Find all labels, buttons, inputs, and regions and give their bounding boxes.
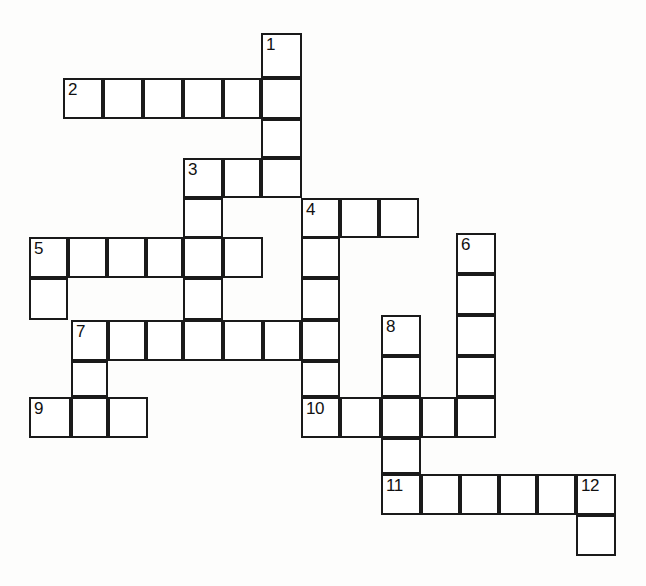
crossword-cell[interactable] bbox=[103, 78, 143, 119]
crossword-cell[interactable] bbox=[183, 198, 223, 238]
crossword-cell[interactable] bbox=[301, 237, 340, 278]
crossword-cell[interactable] bbox=[576, 515, 616, 556]
cell-number-12: 12 bbox=[581, 476, 599, 495]
crossword-cell[interactable] bbox=[381, 397, 421, 438]
cell-number-3: 3 bbox=[188, 160, 197, 179]
crossword-cell-numbered[interactable]: 12 bbox=[576, 474, 616, 515]
crossword-cell[interactable] bbox=[379, 198, 419, 238]
crossword-cell[interactable] bbox=[456, 315, 496, 356]
crossword-cell[interactable] bbox=[456, 274, 496, 315]
crossword-cell[interactable] bbox=[301, 361, 340, 397]
crossword-cell[interactable] bbox=[183, 278, 223, 320]
crossword-cell[interactable] bbox=[223, 78, 261, 119]
crossword-cell-numbered[interactable]: 9 bbox=[29, 397, 71, 438]
crossword-cell-numbered[interactable]: 7 bbox=[71, 320, 108, 361]
cell-number-7: 7 bbox=[76, 322, 85, 341]
crossword-cell-numbered[interactable]: 6 bbox=[456, 233, 496, 274]
crossword-cell[interactable] bbox=[460, 474, 499, 515]
crossword-cell-numbered[interactable]: 8 bbox=[381, 315, 421, 356]
crossword-cell[interactable] bbox=[108, 320, 146, 361]
cell-number-8: 8 bbox=[386, 317, 395, 336]
crossword-cell[interactable] bbox=[143, 78, 183, 119]
crossword-cell[interactable] bbox=[223, 158, 261, 198]
crossword-cell[interactable] bbox=[183, 320, 223, 361]
cell-number-5: 5 bbox=[34, 239, 43, 258]
cell-number-2: 2 bbox=[68, 80, 77, 99]
cell-number-4: 4 bbox=[306, 200, 315, 219]
cell-number-11: 11 bbox=[386, 476, 403, 495]
crossword-cell-numbered[interactable]: 11 bbox=[381, 474, 421, 515]
crossword-cell[interactable] bbox=[381, 356, 421, 397]
crossword-puzzle: 123456789101112 bbox=[0, 0, 646, 586]
crossword-cell-numbered[interactable]: 4 bbox=[301, 198, 340, 238]
crossword-cell[interactable] bbox=[108, 397, 148, 438]
crossword-cell[interactable] bbox=[537, 474, 576, 515]
crossword-cell-numbered[interactable]: 3 bbox=[183, 158, 223, 198]
crossword-cell-numbered[interactable]: 5 bbox=[29, 237, 68, 278]
crossword-cell-numbered[interactable]: 2 bbox=[63, 78, 103, 119]
crossword-cell[interactable] bbox=[29, 278, 68, 320]
crossword-cell[interactable] bbox=[340, 397, 381, 438]
crossword-cell[interactable] bbox=[263, 320, 301, 361]
crossword-cell-numbered[interactable]: 1 bbox=[261, 33, 302, 78]
crossword-cell[interactable] bbox=[183, 78, 223, 119]
cell-number-1: 1 bbox=[266, 35, 275, 54]
crossword-cell[interactable] bbox=[421, 474, 460, 515]
crossword-cell[interactable] bbox=[68, 237, 107, 278]
crossword-cell[interactable] bbox=[71, 397, 108, 438]
crossword-cell[interactable] bbox=[71, 361, 108, 397]
crossword-cell[interactable] bbox=[456, 356, 496, 397]
crossword-cell[interactable] bbox=[261, 78, 302, 119]
cell-number-10: 10 bbox=[306, 399, 324, 418]
crossword-cell[interactable] bbox=[499, 474, 537, 515]
crossword-cell[interactable] bbox=[301, 320, 340, 361]
crossword-cell[interactable] bbox=[146, 237, 183, 278]
crossword-cell[interactable] bbox=[183, 237, 223, 278]
crossword-cell[interactable] bbox=[456, 397, 496, 438]
crossword-cell[interactable] bbox=[261, 119, 302, 158]
crossword-cell-numbered[interactable]: 10 bbox=[301, 397, 340, 438]
crossword-cell[interactable] bbox=[146, 320, 183, 361]
cell-number-6: 6 bbox=[461, 235, 470, 254]
crossword-grid: 123456789101112 bbox=[0, 0, 646, 586]
crossword-cell[interactable] bbox=[340, 198, 379, 238]
crossword-cell[interactable] bbox=[381, 438, 421, 474]
crossword-cell[interactable] bbox=[301, 278, 340, 320]
crossword-cell[interactable] bbox=[261, 158, 302, 198]
crossword-cell[interactable] bbox=[223, 237, 263, 278]
crossword-cell[interactable] bbox=[421, 397, 456, 438]
crossword-cell[interactable] bbox=[107, 237, 146, 278]
crossword-cell[interactable] bbox=[223, 320, 263, 361]
cell-number-9: 9 bbox=[34, 399, 43, 418]
